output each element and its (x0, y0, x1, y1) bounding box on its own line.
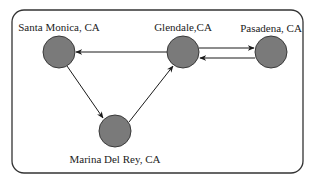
label-santa-monica: Santa Monica, CA (18, 21, 100, 33)
edge-santa-monica-to-marina (67, 66, 103, 118)
node-pasadena (255, 36, 287, 68)
diagram-frame (12, 10, 303, 173)
label-glendale: Glendale,CA (154, 21, 212, 33)
edge-marina-to-glendale (129, 66, 173, 122)
label-marina-del-rey: Marina Del Rey, CA (70, 153, 161, 165)
label-pasadena: Pasadena, CA (240, 22, 302, 34)
node-marina-del-rey (99, 115, 131, 147)
node-glendale (167, 36, 199, 68)
node-santa-monica (43, 36, 75, 68)
graph-diagram: Santa Monica, CA Glendale,CA Pasadena, C… (0, 0, 313, 183)
